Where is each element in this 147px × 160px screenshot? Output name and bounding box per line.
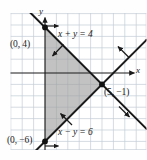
point-label-0-4: (0, 4) <box>10 40 30 50</box>
y-axis-label: y <box>39 7 43 16</box>
point-label-5-neg1: (5, −1) <box>104 88 129 98</box>
equation-label-x-minus-y: x − y = 6 <box>58 128 93 138</box>
x-axis-label: x <box>136 66 140 75</box>
graph-figure: (0, 4) (5, −1) (0, −6) x + y = 4 x − y =… <box>0 0 147 160</box>
equation-label-x-plus-y: x + y = 4 <box>58 30 93 40</box>
point-label-0-neg6: (0, −6) <box>7 136 32 146</box>
point-0-4 <box>42 25 48 31</box>
point-0-neg6 <box>42 139 48 145</box>
